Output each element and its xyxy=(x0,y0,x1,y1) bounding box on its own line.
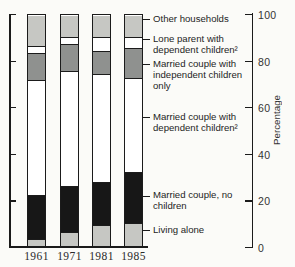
y-axis-left-line xyxy=(9,14,11,247)
bar-segment xyxy=(125,37,142,49)
label-leader-tick xyxy=(142,230,150,231)
y-axis-right-tick xyxy=(245,247,253,248)
y-axis-tick-label: 60 xyxy=(258,102,270,114)
legend-label-married-no-children: Married couple, no children xyxy=(153,189,233,211)
y-axis-right-tick xyxy=(245,200,253,201)
x-axis-label-1985: 1985 xyxy=(121,250,146,262)
bar-segment xyxy=(93,182,110,226)
bar-segment xyxy=(93,51,110,74)
bar-segment xyxy=(93,16,110,37)
label-leader-tick xyxy=(142,39,150,40)
label-leader-tick xyxy=(142,19,150,20)
legend-label-married-independent: Married couple with independent children… xyxy=(153,58,255,91)
y-axis-tick-label: 0 xyxy=(258,242,264,254)
bar-1981 xyxy=(92,14,111,247)
bar-segment xyxy=(125,48,142,78)
bar-segment xyxy=(93,74,110,182)
bar-segment xyxy=(28,80,45,195)
bar-segment xyxy=(125,78,142,172)
label-leader-tick xyxy=(142,64,150,65)
x-axis-label-1961: 1961 xyxy=(24,250,49,262)
bar-segment xyxy=(28,53,45,81)
y-axis-left-tick xyxy=(9,154,16,155)
y-axis-title: Percentage xyxy=(271,95,282,145)
bar-segment xyxy=(28,195,45,239)
bar-segment xyxy=(61,16,78,37)
bar-segment xyxy=(61,37,78,44)
legend-label-other-households: Other households xyxy=(153,13,255,24)
y-axis-tick-label: 80 xyxy=(258,56,270,68)
bar-segment xyxy=(61,232,78,246)
bar-segment xyxy=(28,16,45,46)
y-axis-left-tick xyxy=(9,14,16,15)
y-axis-left-tick xyxy=(9,200,16,201)
y-axis-right-tick xyxy=(245,14,253,15)
x-axis-label-1971: 1971 xyxy=(57,250,82,262)
bar-segment xyxy=(28,46,45,53)
y-axis-tick-label: 100 xyxy=(258,9,276,21)
label-leader-tick xyxy=(142,196,150,197)
bar-segment xyxy=(28,239,45,246)
stacked-bar-chart: Other households Lone parent with depend… xyxy=(0,0,295,267)
legend-label-lone-parent: Lone parent with dependent children² xyxy=(153,33,255,55)
y-axis-tick-label: 20 xyxy=(258,195,270,207)
bar-segment xyxy=(61,71,78,186)
label-leader-tick xyxy=(142,117,150,118)
bar-segment xyxy=(93,225,110,246)
y-axis-tick-label: 40 xyxy=(258,149,270,161)
bar-1985 xyxy=(124,14,143,247)
bar-1971 xyxy=(60,14,79,247)
y-axis-left-tick xyxy=(9,107,16,108)
y-axis-right-tick xyxy=(245,61,253,62)
legend-label-living-alone: Living alone xyxy=(153,224,255,235)
bar-segment xyxy=(125,16,142,37)
y-axis-right-tick xyxy=(245,107,253,108)
bar-segment xyxy=(125,223,142,246)
bar-segment xyxy=(61,44,78,72)
legend-label-married-dependent: Married couple with dependent children² xyxy=(153,111,255,133)
bar-segment xyxy=(125,172,142,223)
bar-1961 xyxy=(27,14,46,247)
y-axis-left-tick xyxy=(9,61,16,62)
bar-segment xyxy=(61,186,78,232)
y-axis-right-tick xyxy=(245,154,253,155)
bar-segment xyxy=(93,37,110,51)
x-axis-label-1981: 1981 xyxy=(89,250,114,262)
